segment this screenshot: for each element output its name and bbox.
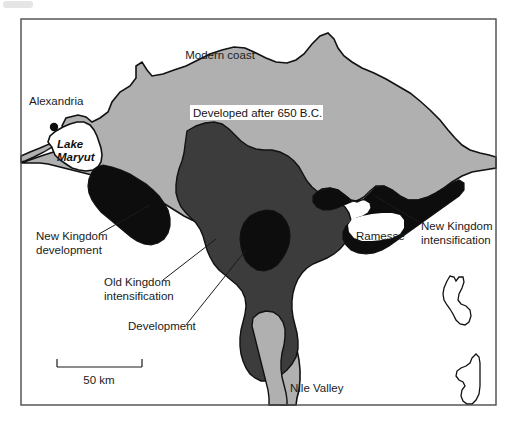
scale-bar: 50 km [57, 359, 142, 386]
label-lake-maryut-line1: Lake [57, 138, 84, 150]
label-new-kingdom-development-line1: New Kingdom [36, 230, 108, 242]
label-development: Development [128, 320, 197, 332]
leader-old-kingdom-intensification [163, 239, 216, 280]
label-ramesse: Ramesse [356, 230, 405, 242]
map-canvas: Modern coast Alexandria Lake Maryut Deve… [0, 0, 515, 422]
label-old-kingdom-intensification-line2: intensification [104, 290, 174, 302]
outlined-lake-upper [443, 276, 471, 325]
nile-delta-map-figure: Modern coast Alexandria Lake Maryut Deve… [0, 0, 515, 422]
label-new-kingdom-intensification-line2: intensification [421, 234, 491, 246]
alexandria-city-marker [50, 123, 58, 131]
outlined-lake-lower [456, 354, 480, 404]
label-lake-maryut-line2: Maryut [57, 151, 96, 163]
label-nile-valley: Nile Valley [290, 382, 344, 394]
label-alexandria: Alexandria [29, 95, 84, 107]
scale-bar-label: 50 km [83, 374, 114, 386]
scan-artifact-smudge [3, 1, 33, 8]
label-developed-after-650bc: Developed after 650 B.C. [193, 107, 322, 119]
label-new-kingdom-intensification-line1: New Kingdom [421, 220, 493, 232]
label-new-kingdom-development-line2: development [36, 244, 103, 256]
label-old-kingdom-intensification-line1: Old Kingdom [104, 276, 170, 288]
label-modern-coast: Modern coast [185, 49, 255, 61]
